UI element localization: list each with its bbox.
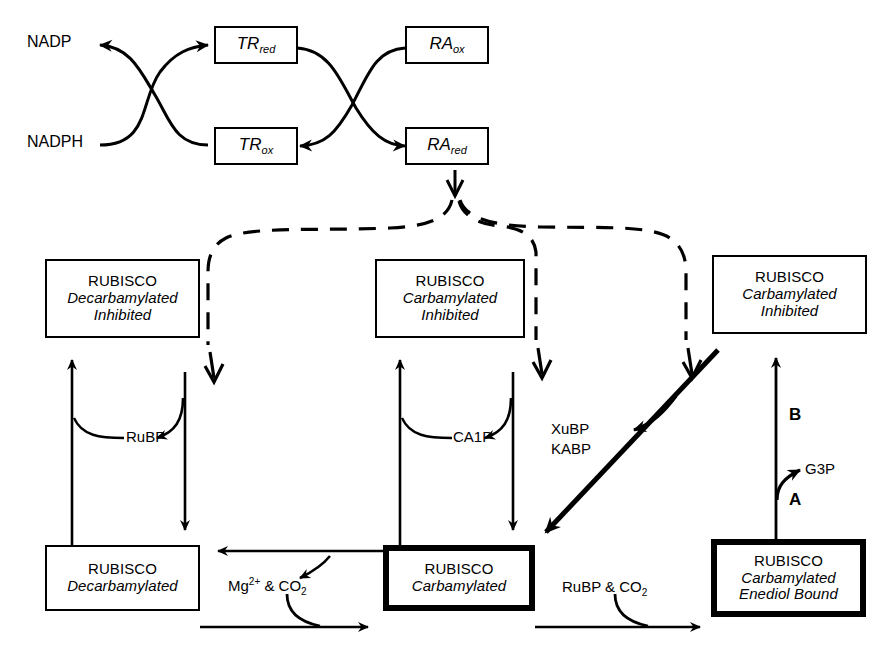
step-a-label: A [789, 490, 801, 510]
box-subtitle-1: Carbamylated [403, 290, 498, 307]
box-title: RUBISCO [754, 553, 823, 570]
ca1p-in-curve [402, 418, 452, 438]
rubp-in-curve [74, 418, 124, 438]
nadph-label: NADPH [27, 133, 83, 151]
box-subtitle-1: Decarbamylated [67, 290, 178, 307]
trox-to-nadp-arrow [100, 45, 208, 145]
tr-red-label: TRred [237, 34, 276, 55]
box-subtitle-1: Carbamylated [742, 286, 837, 303]
box-decarbamylated-inhibited: RUBISCO Decarbamylated Inhibited [45, 259, 200, 338]
ra-red-label: RAred [427, 135, 467, 156]
mg-co2-release-curve [300, 556, 330, 578]
box-subtitle-2: Inhibited [761, 303, 819, 320]
nadp-label: NADP [27, 33, 71, 51]
step-b-label: B [789, 405, 801, 425]
rubp-label: RuBP [126, 428, 165, 445]
ra-ox-label: RAox [429, 34, 464, 55]
trred-to-rared-arrow [297, 48, 405, 146]
box-subtitle-2: Inhibited [421, 307, 479, 324]
box-carbamylated-inhibited-middle: RUBISCO Carbamylated Inhibited [375, 259, 525, 338]
box-subtitle-2: Inhibited [94, 307, 152, 324]
tr-ox-label: TRox [239, 135, 273, 156]
box-subtitle-2: Enediol Bound [739, 586, 838, 603]
mg-co2-in-curve [287, 594, 320, 626]
box-ra-red: RAred [405, 127, 489, 165]
box-tr-red: TRred [214, 26, 298, 64]
box-subtitle-1: Carbamylated [741, 570, 836, 587]
g3p-label: G3P [805, 460, 835, 477]
box-subtitle-1: Carbamylated [412, 578, 507, 595]
box-subtitle-1: Decarbamylated [67, 578, 178, 595]
box-carbamylated-inhibited-right: RUBISCO Carbamylated Inhibited [712, 255, 867, 334]
mg-co2-label: Mg2+ & CO2 [228, 576, 307, 597]
box-carbamylated-enediol-bound: RUBISCO Carbamylated Enediol Bound [711, 539, 866, 617]
rared-stem [447, 170, 463, 196]
pathway-diagram: NADP NADPH TRred TRox RAox RAred RUBISCO… [0, 0, 883, 661]
raox-to-trox-arrow [300, 48, 405, 146]
box-title: RUBISCO [88, 273, 157, 290]
ca1p-label: CA1P [453, 428, 492, 445]
box-title: RUBISCO [755, 269, 824, 286]
box-carbamylated: RUBISCO Carbamylated [383, 545, 535, 611]
box-ra-ox: RAox [405, 26, 489, 64]
xubp-label: XuBP [551, 420, 589, 437]
rubp-co2-label: RuBP & CO2 [562, 578, 647, 598]
box-title: RUBISCO [88, 561, 157, 578]
rubp-co2-in-curve [615, 594, 648, 626]
box-title: RUBISCO [415, 273, 484, 290]
kabp-label: KABP [551, 440, 591, 457]
box-tr-ox: TRox [214, 127, 298, 165]
box-title: RUBISCO [424, 561, 493, 578]
box-decarbamylated: RUBISCO Decarbamylated [45, 545, 200, 611]
